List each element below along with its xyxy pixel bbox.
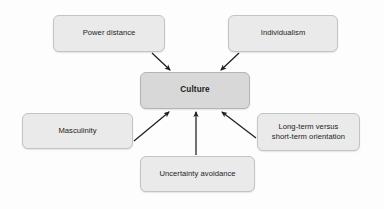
node-long-term-versus-short-term-orientation[interactable]: Long-term versus short-term orientation	[257, 113, 360, 151]
arrow-individualism-to-culture	[221, 53, 239, 70]
node-uncertainty-avoidance-label: Uncertainty avoidance	[154, 169, 240, 179]
node-power-distance[interactable]: Power distance	[53, 15, 165, 52]
arrow-long-term-orientation-to-culture	[222, 112, 256, 138]
node-culture[interactable]: Culture	[140, 72, 250, 109]
node-culture-label: Culture	[175, 85, 214, 96]
arrow-power-distance-to-culture	[152, 53, 170, 70]
node-masculinity-label: Masculinity	[53, 126, 101, 136]
node-individualism-label: Individualism	[256, 28, 311, 38]
node-masculinity[interactable]: Masculinity	[22, 113, 133, 149]
arrow-masculinity-to-culture	[134, 112, 169, 141]
node-power-distance-label: Power distance	[78, 28, 141, 38]
node-individualism[interactable]: Individualism	[228, 15, 338, 52]
node-uncertainty-avoidance[interactable]: Uncertainty avoidance	[140, 156, 255, 192]
node-long-term-versus-short-term-orientation-label: Long-term versus short-term orientation	[267, 122, 350, 142]
diagram-canvas: Culture Power distance Individualism Mas…	[0, 0, 384, 209]
